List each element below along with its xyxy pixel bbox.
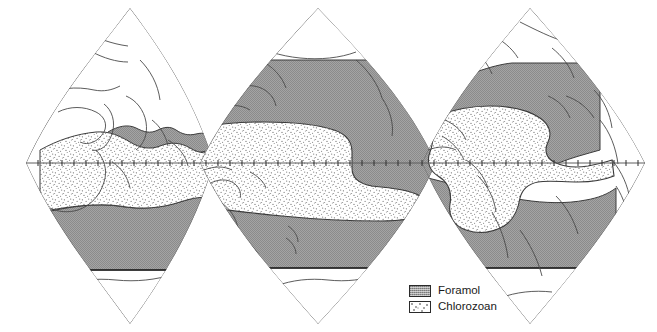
legend-label-chlorozoan: Chlorozoan — [438, 300, 497, 313]
legend-item-foramol: Foramol — [409, 283, 537, 298]
carbonate-facies-figure: A — [0, 0, 657, 332]
chlorozoan-swatch-icon — [409, 301, 431, 313]
world-map — [0, 0, 657, 332]
legend-label-foramol: Foramol — [438, 284, 480, 297]
legend-item-chlorozoan: Chlorozoan — [409, 299, 537, 314]
facies-legend: Foramol Chlorozoan — [409, 283, 537, 315]
foramol-swatch-icon — [409, 285, 431, 297]
